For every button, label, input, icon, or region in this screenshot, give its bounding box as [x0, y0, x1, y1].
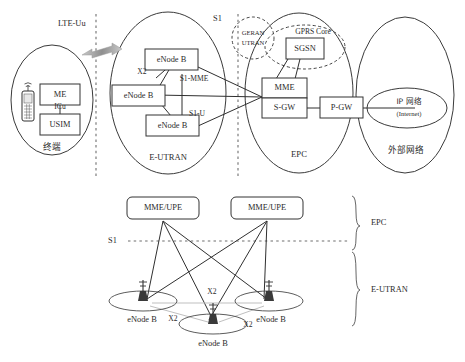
base-station-center-label: eNode B: [198, 339, 228, 348]
gprs-core-label: GPRS Core: [295, 27, 331, 36]
bracket-epc-label: EPC: [371, 218, 387, 227]
zone-epc-label: EPC: [291, 149, 307, 159]
x2-label-right: X2: [243, 320, 252, 329]
bracket-eutran: [352, 252, 360, 326]
mme-upe-left-label: MME/UPE: [144, 203, 182, 212]
zone-ue-label: 终端: [43, 141, 61, 152]
bracket-eutran-label: E-UTRAN: [371, 285, 408, 294]
s1-mid-line: [156, 95, 262, 97]
diagram-canvas: ME ICu USIM 终端 eNode B eNode B eNode B X…: [0, 0, 465, 362]
x2-link-left-center: [150, 306, 208, 322]
network-architecture-diagram: ME ICu USIM 终端 eNode B eNode B eNode B X…: [0, 0, 465, 362]
ue-me-label: ME: [54, 90, 67, 99]
x2-label-upper: X2: [137, 67, 146, 76]
s1-mme-label: S1-MME: [180, 74, 209, 83]
x2-label-left: X2: [168, 314, 177, 323]
ue-usim-label: USIM: [50, 120, 71, 129]
zone-eutran-label: E-UTRAN: [149, 152, 188, 162]
mme-label: MME: [274, 83, 294, 92]
utran-label: UTRAN: [242, 39, 265, 46]
s1-link-l-left: [147, 221, 163, 299]
s1-link-r-right: [264, 221, 267, 299]
enb-top-label: eNode B: [157, 55, 187, 64]
sgsn-label: SGSN: [294, 44, 315, 53]
mme-upe-right-label: MME/UPE: [248, 203, 286, 212]
s1-label-upper: S1: [213, 14, 222, 23]
ip-network-label: IP 网络: [396, 96, 421, 106]
s1-label-lower: S1: [108, 236, 117, 245]
pgw-label: P-GW: [331, 103, 352, 112]
zone-external-label: 外部网络: [388, 144, 424, 155]
s1-link-l-center: [163, 221, 213, 320]
lte-uu-label: LTE-Uu: [58, 19, 86, 28]
base-station-center: [179, 303, 247, 334]
enb-mid-label: eNode B: [124, 91, 154, 100]
sgw-label: S-GW: [274, 103, 295, 112]
internet-label: (Internet): [397, 110, 422, 118]
s1-u-label: S1-U: [189, 109, 206, 118]
base-station-right-label: eNode B: [256, 315, 286, 324]
bracket-epc: [352, 196, 360, 250]
x2-label-center: X2: [207, 287, 216, 296]
enb-bot-label: eNode B: [158, 121, 188, 130]
icu-label: ICu: [54, 102, 66, 111]
base-station-left-label: eNode B: [127, 315, 157, 324]
base-station-left: [109, 280, 177, 311]
mobile-phone-icon: [22, 83, 34, 121]
s1-u-line: [198, 97, 262, 126]
base-station-right: [235, 280, 303, 311]
geran-label: GERAN: [242, 29, 265, 36]
